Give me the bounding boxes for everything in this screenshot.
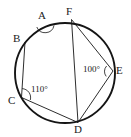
circle-diagram-svg	[0, 0, 131, 137]
angle-label-e: 100°	[83, 65, 100, 74]
chord-d-e	[78, 71, 113, 123]
vertex-label-d: D	[74, 124, 82, 135]
chord-f-d	[72, 20, 79, 123]
vertex-label-e: E	[116, 65, 123, 76]
vertex-label-b: B	[13, 33, 20, 44]
vertex-label-c: C	[8, 95, 15, 106]
vertex-label-f: F	[66, 6, 72, 17]
angle-arc-e	[104, 66, 106, 76]
geometry-figure-canvas: A B C D E F 110° 100°	[0, 0, 131, 137]
vertex-label-a: A	[38, 10, 46, 21]
angle-label-c: 110°	[31, 85, 48, 94]
